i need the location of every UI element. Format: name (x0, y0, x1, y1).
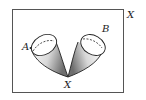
apex-x-label: X (63, 79, 72, 90)
cone-diagram: X X A B (0, 0, 146, 100)
cone-a (28, 30, 68, 77)
cone-b (68, 30, 109, 77)
point-a-marker (30, 47, 32, 49)
cone-b-label: B (101, 23, 109, 34)
cone-a-label: A (21, 41, 29, 52)
space-x-label: X (126, 9, 135, 20)
